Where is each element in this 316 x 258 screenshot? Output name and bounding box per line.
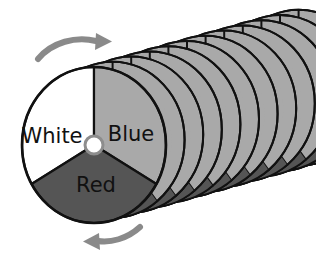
figure-root: WhiteBlueRed <box>0 0 316 258</box>
center-hub <box>85 136 103 154</box>
red-sector-label: Red <box>76 173 116 197</box>
spinning-disc-diagram: WhiteBlueRed <box>0 0 316 258</box>
blue-sector-label: Blue <box>108 122 154 146</box>
white-sector-label: White <box>21 124 82 148</box>
